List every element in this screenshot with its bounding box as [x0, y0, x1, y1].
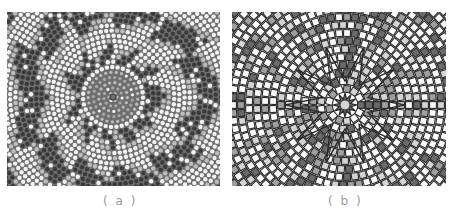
figure-panel-a-dot-mosaic: [7, 12, 220, 186]
panel-b-label: ( b ): [328, 194, 363, 208]
dot-mosaic-image: [7, 12, 220, 186]
panel-a-label: ( a ): [103, 194, 137, 208]
figure-panel-b-tile-mosaic: [232, 12, 446, 186]
figure-caption-fragment: …: [6, 217, 15, 223]
tile-mosaic-image: [232, 12, 446, 186]
